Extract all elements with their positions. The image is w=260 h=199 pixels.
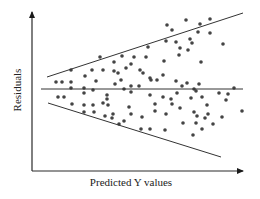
data-point bbox=[191, 133, 195, 137]
data-point bbox=[161, 73, 165, 77]
data-point bbox=[221, 42, 225, 46]
data-point bbox=[177, 53, 181, 57]
data-point bbox=[200, 95, 204, 99]
data-point bbox=[54, 80, 58, 84]
data-point bbox=[132, 55, 136, 59]
data-point bbox=[226, 92, 230, 96]
data-point bbox=[91, 103, 95, 107]
data-point bbox=[113, 82, 117, 86]
data-point bbox=[139, 127, 143, 131]
upper-funnel-line bbox=[47, 13, 243, 77]
residual-plot: Residuals Predicted Y values bbox=[0, 0, 260, 199]
data-point bbox=[170, 28, 174, 32]
data-point bbox=[180, 84, 184, 88]
data-point bbox=[217, 91, 221, 95]
data-point bbox=[112, 69, 116, 73]
data-point bbox=[211, 122, 215, 126]
data-point bbox=[105, 93, 109, 97]
data-point bbox=[124, 66, 128, 70]
data-point bbox=[101, 68, 105, 72]
data-point bbox=[56, 95, 60, 99]
data-point bbox=[197, 82, 201, 86]
y-axis-label: Residuals bbox=[11, 69, 23, 112]
data-point bbox=[161, 95, 165, 99]
data-point bbox=[181, 121, 185, 125]
data-point bbox=[194, 121, 198, 125]
data-point bbox=[174, 40, 178, 44]
data-point bbox=[199, 60, 203, 64]
data-point bbox=[127, 105, 131, 109]
data-point bbox=[208, 31, 212, 35]
data-point bbox=[190, 41, 194, 45]
data-point bbox=[90, 68, 94, 72]
data-point bbox=[165, 23, 169, 27]
plot-area bbox=[41, 13, 244, 157]
data-point bbox=[111, 112, 115, 116]
data-point bbox=[200, 127, 204, 131]
data-point bbox=[82, 91, 86, 95]
data-point bbox=[146, 45, 150, 49]
data-point bbox=[141, 71, 145, 75]
data-point bbox=[164, 112, 168, 116]
data-point bbox=[103, 114, 107, 118]
data-point bbox=[192, 110, 196, 114]
data-point bbox=[110, 116, 114, 120]
data-point bbox=[185, 81, 189, 85]
data-point bbox=[120, 54, 124, 58]
data-point bbox=[203, 116, 207, 120]
data-point bbox=[105, 97, 109, 101]
data-point bbox=[82, 103, 86, 107]
data-point bbox=[162, 59, 166, 63]
data-point bbox=[129, 84, 133, 88]
data-point bbox=[82, 110, 86, 114]
data-point bbox=[194, 89, 198, 93]
data-point bbox=[138, 68, 142, 72]
data-point bbox=[206, 112, 210, 116]
data-point bbox=[184, 18, 188, 22]
data-point bbox=[186, 48, 190, 52]
data-point bbox=[148, 127, 152, 131]
data-point bbox=[70, 102, 74, 106]
data-point bbox=[116, 71, 120, 75]
data-point bbox=[220, 115, 224, 119]
scatter-points bbox=[54, 17, 244, 137]
data-point bbox=[92, 110, 96, 114]
data-point bbox=[224, 98, 228, 102]
data-point bbox=[240, 109, 244, 113]
data-point bbox=[137, 84, 141, 88]
data-point bbox=[122, 119, 126, 123]
data-point bbox=[178, 46, 182, 50]
data-point bbox=[94, 79, 98, 83]
data-point bbox=[188, 37, 192, 41]
data-point bbox=[195, 114, 199, 118]
data-point bbox=[144, 55, 148, 59]
data-point bbox=[149, 78, 153, 82]
data-point bbox=[62, 95, 66, 99]
data-point bbox=[170, 102, 174, 106]
data-point bbox=[140, 115, 144, 119]
data-point bbox=[129, 62, 133, 66]
data-point bbox=[163, 128, 167, 132]
x-axis-label: Predicted Y values bbox=[90, 176, 172, 188]
data-point bbox=[83, 74, 87, 78]
data-point bbox=[101, 101, 105, 105]
data-point bbox=[169, 97, 173, 101]
data-point bbox=[129, 112, 133, 116]
data-point bbox=[119, 78, 123, 82]
data-point bbox=[129, 90, 133, 94]
data-point bbox=[155, 78, 159, 82]
data-point bbox=[98, 55, 102, 59]
data-point bbox=[69, 80, 73, 84]
data-point bbox=[196, 30, 200, 34]
data-point bbox=[112, 60, 116, 64]
data-point bbox=[198, 22, 202, 26]
data-point bbox=[164, 39, 168, 43]
data-point bbox=[205, 103, 209, 107]
data-point bbox=[60, 80, 64, 84]
data-point bbox=[153, 109, 157, 113]
data-point bbox=[106, 103, 110, 107]
data-point bbox=[208, 17, 212, 21]
data-point bbox=[189, 96, 193, 100]
data-point bbox=[174, 79, 178, 83]
data-point bbox=[175, 91, 179, 95]
